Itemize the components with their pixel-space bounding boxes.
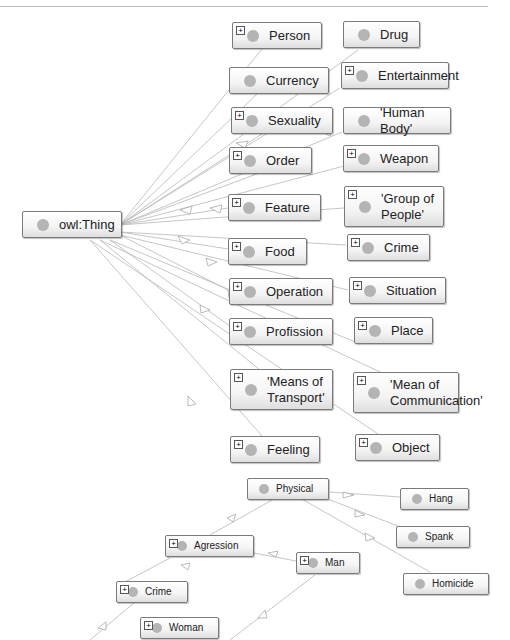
node-label: Physical <box>276 481 313 497</box>
class-dot-icon <box>408 532 418 542</box>
node-group-of-people[interactable]: + 'Group of People' <box>344 186 444 227</box>
node-person[interactable]: + Person <box>232 22 322 49</box>
class-dot-icon <box>359 201 371 213</box>
node-label: 'Means of Transport' <box>267 374 325 406</box>
expand-icon[interactable]: + <box>235 111 244 120</box>
node-label: Currency <box>266 73 319 89</box>
class-dot-icon <box>245 444 257 456</box>
node-crime[interactable]: + Crime <box>347 234 430 261</box>
expand-icon[interactable]: + <box>232 198 241 207</box>
node-hang[interactable]: Hang <box>400 488 469 510</box>
expand-icon[interactable]: + <box>233 282 242 291</box>
expand-icon[interactable]: + <box>169 539 178 548</box>
expand-icon[interactable]: + <box>300 556 309 565</box>
node-label: Order <box>266 153 299 169</box>
node-label: Feeling <box>267 442 310 458</box>
node-label: owl:Thing <box>59 217 115 233</box>
class-dot-icon <box>243 202 255 214</box>
node-situation[interactable]: + Situation <box>349 277 446 304</box>
node-label: Person <box>269 28 310 44</box>
node-label: Man <box>325 555 344 571</box>
node-label: Woman <box>169 620 203 636</box>
expand-icon[interactable]: + <box>234 440 243 449</box>
node-label: Profission <box>266 324 323 340</box>
expand-icon[interactable]: + <box>359 438 368 447</box>
expand-icon[interactable]: + <box>357 376 366 385</box>
class-dot-icon <box>259 484 269 494</box>
node-feature[interactable]: + Feature <box>228 194 321 221</box>
node-sexuality[interactable]: + Sexuality <box>231 107 333 134</box>
node-label: Weapon <box>380 151 428 167</box>
class-dot-icon <box>244 286 256 298</box>
node-label: 'Group of People' <box>381 191 434 223</box>
node-label: Hang <box>429 491 453 507</box>
node-feeling[interactable]: + Feeling <box>230 436 320 463</box>
expand-icon[interactable]: + <box>234 373 243 382</box>
node-woman[interactable]: + Woman <box>140 617 219 639</box>
expand-icon[interactable]: + <box>120 585 129 594</box>
expand-icon[interactable]: + <box>351 238 360 247</box>
node-physical[interactable]: Physical <box>247 478 329 500</box>
class-dot-icon <box>358 153 370 165</box>
node-label: Homicide <box>432 576 474 592</box>
class-dot-icon <box>37 219 49 231</box>
node-spank[interactable]: Spank <box>396 526 470 548</box>
node-label: Place <box>391 323 424 339</box>
expand-icon[interactable]: + <box>358 321 367 330</box>
class-dot-icon <box>128 587 138 597</box>
class-dot-icon <box>152 623 162 633</box>
class-dot-icon <box>244 326 256 338</box>
node-entertainment[interactable]: + Entertainment <box>341 62 449 89</box>
node-crime-sub[interactable]: + Crime <box>116 581 188 603</box>
node-means-of-transport[interactable]: + 'Means of Transport' <box>230 369 333 410</box>
node-operation[interactable]: + Operation <box>229 278 333 305</box>
node-man[interactable]: + Man <box>296 552 360 574</box>
class-dot-icon <box>245 384 257 396</box>
node-food[interactable]: + Food <box>228 238 307 265</box>
class-dot-icon <box>369 325 381 337</box>
node-label: Object <box>392 440 430 456</box>
node-owl-thing[interactable]: owl:Thing <box>22 211 122 238</box>
expand-icon[interactable]: + <box>348 190 357 199</box>
expand-icon[interactable]: + <box>233 151 242 160</box>
class-dot-icon <box>356 70 368 82</box>
expand-icon[interactable]: + <box>232 242 241 251</box>
expand-icon[interactable]: + <box>353 281 362 290</box>
node-label: 'Human Body' <box>380 105 450 137</box>
expand-icon[interactable]: + <box>347 149 356 158</box>
node-weapon[interactable]: + Weapon <box>343 145 439 172</box>
expand-icon[interactable]: + <box>345 66 354 75</box>
class-dot-icon <box>362 242 374 254</box>
node-mean-of-communication[interactable]: + 'Mean of Communication' <box>353 372 459 413</box>
class-dot-icon <box>358 29 370 41</box>
node-label: Food <box>265 244 295 260</box>
node-agression[interactable]: + Agression <box>165 535 254 557</box>
node-label: Crime <box>384 240 419 256</box>
node-label: Agression <box>194 538 238 554</box>
class-dot-icon <box>415 579 425 589</box>
node-label: Crime <box>145 584 172 600</box>
class-dot-icon <box>412 494 422 504</box>
node-order[interactable]: + Order <box>229 147 312 174</box>
class-dot-icon <box>358 115 370 127</box>
node-label: Situation <box>386 283 437 299</box>
expand-icon[interactable]: + <box>233 322 242 331</box>
node-drug[interactable]: Drug <box>343 21 420 48</box>
node-human-body[interactable]: 'Human Body' <box>343 107 451 134</box>
class-dot-icon <box>364 285 376 297</box>
node-place[interactable]: + Place <box>354 317 433 344</box>
class-dot-icon <box>244 155 256 167</box>
node-label: Entertainment <box>378 68 459 84</box>
expand-icon[interactable]: + <box>236 26 245 35</box>
class-dot-icon <box>244 75 256 87</box>
node-label: Spank <box>425 529 453 545</box>
node-homicide[interactable]: Homicide <box>403 573 489 595</box>
node-profission[interactable]: + Profission <box>229 318 333 345</box>
expand-icon[interactable]: + <box>144 621 153 630</box>
node-label: Feature <box>265 200 310 216</box>
node-label: 'Mean of Communication' <box>390 377 483 409</box>
class-dot-icon <box>370 442 382 454</box>
node-label: Drug <box>380 27 408 43</box>
node-object[interactable]: + Object <box>355 434 440 461</box>
node-currency[interactable]: Currency <box>229 67 329 94</box>
